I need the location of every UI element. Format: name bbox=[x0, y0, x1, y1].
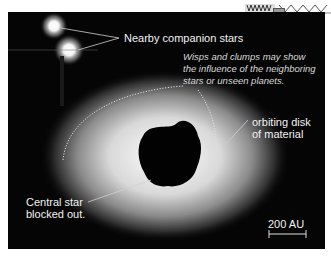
companion-leader-2 bbox=[78, 38, 119, 50]
central-star-label-line1: Central star bbox=[26, 196, 83, 208]
disk-label-line2: of material bbox=[252, 128, 303, 140]
central-star-label-line2: blocked out. bbox=[26, 208, 85, 220]
central-star-mask bbox=[139, 121, 201, 187]
companion-stars-label: Nearby companion stars bbox=[124, 32, 243, 44]
corner-toolbar-fragment bbox=[245, 0, 331, 12]
wisps-label-line1: Wisps and clumps may show bbox=[183, 51, 305, 62]
scale-label: 200 AU bbox=[268, 218, 304, 230]
wisps-label-line2: the influence of the neighboring bbox=[183, 63, 316, 74]
disk-label-line1: orbiting disk bbox=[252, 116, 311, 128]
wisps-label-line3: stars or unseen planets. bbox=[183, 75, 284, 86]
astronomy-image: Nearby companion stars Wisps and clumps … bbox=[8, 12, 325, 249]
